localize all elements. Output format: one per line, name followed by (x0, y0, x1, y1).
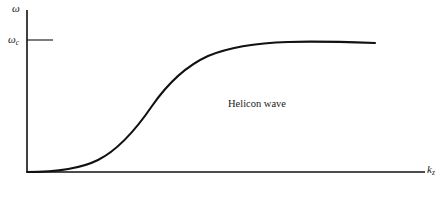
helicon-wave-dispersion-figure: ω ωc kz Helicon wave (0, 0, 442, 201)
plot-canvas (0, 0, 442, 201)
y-axis-label: ω (12, 3, 20, 14)
omega-c-tick-label: ωc (8, 34, 19, 46)
helicon-wave-annotation: Helicon wave (228, 99, 286, 110)
omega-c-subscript: c (16, 38, 19, 47)
k-subscript: z (432, 168, 435, 177)
helicon-wave-curve (27, 42, 375, 172)
omega-c-symbol: ω (8, 33, 16, 45)
x-axis-label: kz (427, 164, 435, 176)
